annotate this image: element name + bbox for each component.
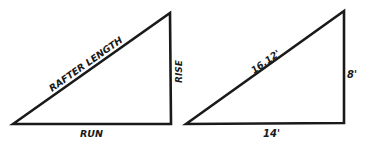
rafter-diagram: RAFTER LENGTH RISE RUN 16.12' 8' 14' xyxy=(0,0,365,151)
example-triangle: 16.12' 8' 14' xyxy=(186,11,357,139)
rafter-length-label: RAFTER LENGTH xyxy=(47,34,125,93)
diagram-svg: RAFTER LENGTH RISE RUN 16.12' 8' 14' xyxy=(0,0,365,151)
general-triangle-shape xyxy=(13,13,171,124)
rise-value: 8' xyxy=(347,69,357,80)
run-label: RUN xyxy=(80,128,103,139)
general-triangle: RAFTER LENGTH RISE RUN xyxy=(13,13,184,139)
run-value: 14' xyxy=(263,128,280,139)
rafter-length-value: 16.12' xyxy=(249,47,282,75)
rise-label: RISE xyxy=(174,59,184,83)
